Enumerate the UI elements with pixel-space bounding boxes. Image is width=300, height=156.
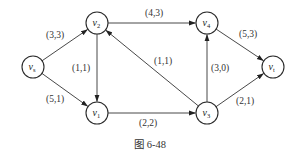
edge-label-v2-v1: (1,1)	[72, 63, 90, 74]
node-vs: vs	[22, 56, 44, 78]
edge-labels-layer: (3,3)(5,1)(1,1)(4,3)(1,1)(2,2)(3,0)(5,3)…	[46, 8, 257, 129]
node-v3: v3	[196, 102, 218, 124]
edge-label-v3-vt: (2,1)	[236, 96, 254, 107]
node-vt: vt	[262, 56, 284, 78]
edge-v3-v2	[106, 30, 199, 106]
edge-label-v4-vt: (5,3)	[239, 29, 257, 40]
figure-caption: 图 6-48	[0, 136, 300, 151]
node-v1: v1	[86, 102, 108, 124]
edge-label-v3-v2: (1,1)	[154, 56, 172, 67]
edge-label-vs-v1: (5,1)	[46, 94, 64, 105]
node-v4: v4	[196, 12, 218, 34]
network-flow-diagram: (3,3)(5,1)(1,1)(4,3)(1,1)(2,2)(3,0)(5,3)…	[0, 0, 300, 156]
edge-label-v2-v4: (4,3)	[145, 8, 163, 19]
node-v2: v2	[86, 12, 108, 34]
edge-label-v3-v4: (3,0)	[211, 63, 229, 74]
edge-label-vs-v2: (3,3)	[46, 30, 64, 41]
edge-label-v1-v3: (2,2)	[139, 118, 157, 129]
